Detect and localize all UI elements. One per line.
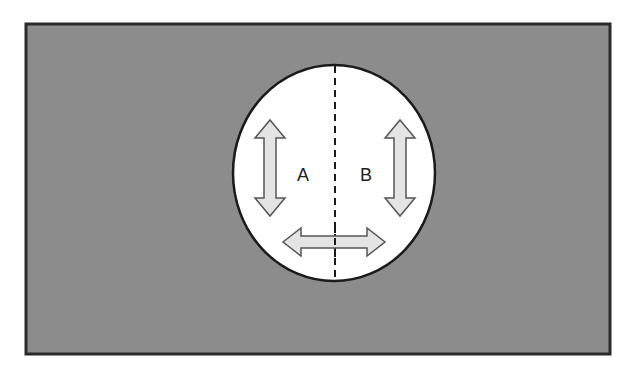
region-label-b: B <box>360 165 372 185</box>
diagram: A B <box>0 0 637 373</box>
region-label-a: A <box>297 165 309 185</box>
